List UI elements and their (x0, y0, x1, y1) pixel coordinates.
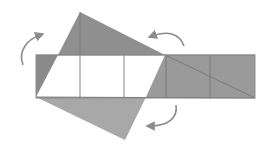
dissection-diagram (0, 0, 270, 152)
top-triangle (58, 12, 165, 55)
white-parallelogram (36, 55, 165, 97)
rotate-arrow-top-right-icon (152, 33, 184, 46)
rotate-arrow-bottom-right-icon (150, 105, 176, 126)
bottom-triangle (36, 97, 146, 140)
